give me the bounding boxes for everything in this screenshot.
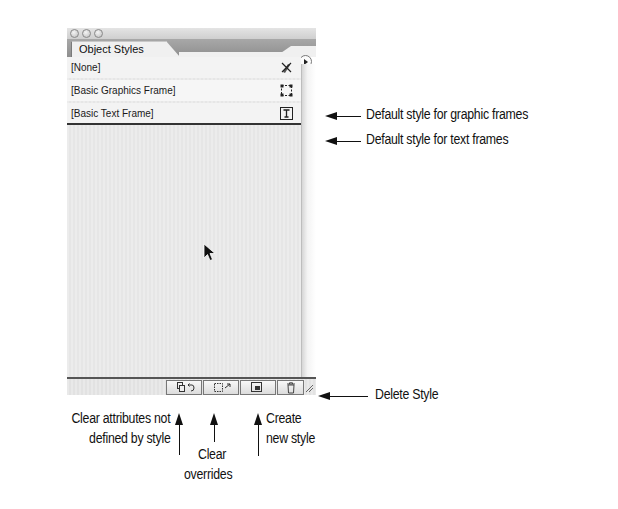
text-frame-icon [280,107,293,120]
list-item-basic-text-frame[interactable]: [Basic Text Frame] [67,103,301,125]
no-style-pen-icon [280,61,293,74]
new-style-icon [251,382,263,393]
callout-line [328,396,368,397]
callout-line [335,116,361,117]
close-window-icon[interactable] [70,29,79,38]
graphics-frame-icon [280,84,293,97]
callout-line [258,424,259,456]
callout-line [335,141,361,142]
list-item-basic-graphics-frame[interactable]: [Basic Graphics Frame] [67,80,301,101]
callout-clear-overrides-line1: Clear [198,446,226,462]
scrollbar[interactable] [301,64,316,377]
clear-attributes-icon [177,382,195,393]
tab-shape [166,41,180,57]
callout-clear-attributes-line1: Clear attributes not [71,410,170,426]
object-styles-panel: Object Styles [None] [Basic Graphics Fra… [67,28,316,395]
clear-attributes-not-defined-button[interactable] [166,380,202,395]
tab-shape [275,46,291,57]
callout-line [214,424,215,442]
list-item-label: [None] [71,62,100,73]
list-item-none[interactable]: [None] [67,57,301,78]
callout-delete-style: Delete Style [375,386,438,402]
clear-overrides-icon [214,382,232,393]
mouse-pointer-icon [203,243,217,263]
panel-footer [67,377,316,395]
callout-line [179,424,180,455]
callout-graphics-frame: Default style for graphic frames [366,106,528,122]
create-new-style-button[interactable] [240,380,276,395]
zoom-window-icon[interactable] [94,29,103,38]
clear-overrides-button[interactable] [203,380,239,395]
callout-create-new-line1: Create [266,410,301,426]
resize-grip-icon[interactable] [304,381,315,394]
callout-create-new-line2: new style [266,430,315,446]
callout-clear-overrides-line2: overrides [184,466,232,482]
style-list[interactable]: [None] [Basic Graphics Frame] [Basic Tex… [67,57,301,377]
trash-icon [286,382,296,394]
tab-object-styles[interactable]: Object Styles [71,41,167,57]
list-item-label: [Basic Text Frame] [71,108,154,119]
minimize-window-icon[interactable] [82,29,91,38]
panel-titlebar[interactable] [67,28,316,39]
callout-clear-attributes-line2: defined by style [89,430,170,446]
delete-style-button[interactable] [277,380,304,395]
list-item-label: [Basic Graphics Frame] [71,85,175,96]
callout-text-frame: Default style for text frames [366,131,508,147]
